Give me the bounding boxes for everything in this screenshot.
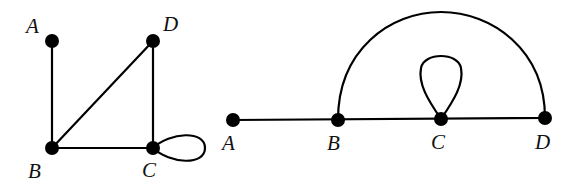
label-b: B (28, 159, 41, 180)
node-b (331, 113, 345, 127)
arc-b-d (338, 12, 545, 120)
diagram-canvas: A D B C A B C D (0, 0, 582, 180)
right-graph: A B C D (220, 12, 552, 155)
label-a: A (24, 14, 39, 38)
edge-a-b-c-d (233, 118, 545, 120)
label-a: A (220, 131, 235, 155)
node-a (226, 113, 240, 127)
graph-diagram: A D B C A B C D (0, 0, 582, 180)
label-d: D (534, 130, 550, 154)
node-d (146, 34, 160, 48)
node-b (45, 141, 59, 155)
node-c (146, 141, 160, 155)
loop-c (153, 135, 205, 161)
node-c (434, 112, 448, 126)
label-c: C (431, 130, 446, 154)
label-d: D (162, 12, 178, 36)
node-d (538, 111, 552, 125)
loop-c (420, 56, 461, 119)
edge-b-d (52, 41, 153, 148)
label-b: B (327, 131, 340, 155)
label-c: C (142, 158, 157, 180)
node-a (45, 34, 59, 48)
left-graph: A D B C (24, 12, 205, 180)
